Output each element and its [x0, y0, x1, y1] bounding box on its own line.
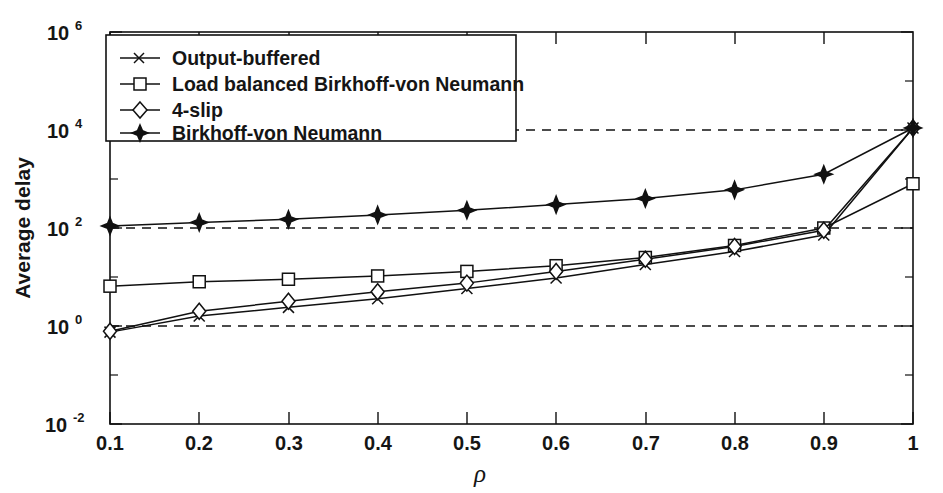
legend-label-1: Load balanced Birkhoff-von Neumann [172, 73, 524, 95]
y-tick-exponent-0: -2 [73, 410, 85, 425]
y-tick-mantissa-0: 10 [45, 414, 67, 436]
legend-entry-load-balanced-bvn[interactable]: Load balanced Birkhoff-von Neumann [120, 73, 524, 95]
x-tick-label-4: 0.5 [453, 432, 481, 454]
square-marker-icon [282, 273, 294, 285]
x-tick-label-1: 0.2 [185, 432, 213, 454]
x-tick-label-6: 0.7 [632, 432, 660, 454]
x-tick-label-5: 0.6 [542, 432, 570, 454]
legend-label-2: 4-slip [172, 99, 223, 121]
x-tick-label-2: 0.3 [275, 432, 303, 454]
square-marker-icon [372, 270, 384, 282]
x-tick-label-9: 1 [907, 432, 918, 454]
average-delay-log-plot: 10 6 10 4 10 2 10 0 10 -2 0.1 0.2 [0, 0, 943, 493]
y-tick-mantissa-2: 10 [47, 218, 69, 240]
y-tick-mantissa-4: 10 [47, 22, 69, 44]
legend: Output-buffered Load balanced Birkhoff-v… [106, 35, 524, 144]
x-tick-label-0: 0.1 [96, 432, 124, 454]
x-tick-label-3: 0.4 [364, 432, 393, 454]
y-tick-exponent-2: 2 [75, 214, 82, 229]
x-tick-label-7: 0.8 [721, 432, 749, 454]
legend-label-3: Birkhoff-von Neumann [172, 122, 382, 144]
y-tick-mantissa-3: 10 [47, 120, 69, 142]
square-marker-icon [907, 178, 919, 190]
square-marker-icon [104, 280, 116, 292]
square-marker-icon [193, 276, 205, 288]
y-tick-exponent-3: 4 [75, 116, 83, 131]
figure-container: 10 6 10 4 10 2 10 0 10 -2 0.1 0.2 [0, 0, 943, 493]
x-axis-title: ρ [473, 460, 486, 487]
y-tick-mantissa-1: 10 [47, 316, 69, 338]
y-tick-exponent-4: 6 [75, 18, 82, 33]
y-axis-title: Average delay [11, 157, 34, 299]
legend-label-0: Output-buffered [172, 47, 320, 69]
y-tick-exponent-1: 0 [75, 312, 82, 327]
x-tick-label-8: 0.9 [810, 432, 838, 454]
